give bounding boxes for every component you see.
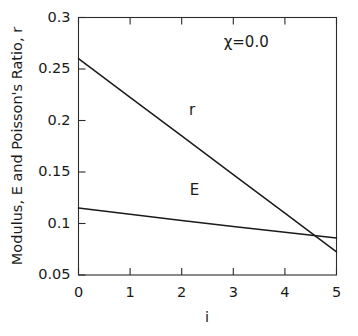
line-chart-canvas: 0.050.10.150.20.250.3 012345 rE χ=0.0 i … (0, 0, 358, 336)
y-axis-tick-labels: 0.050.10.150.20.250.3 (38, 9, 70, 283)
y-tick-label-3: 0.2 (47, 112, 70, 128)
x-tick-label-2: 2 (177, 284, 186, 300)
y-tick-label-1: 0.1 (47, 215, 70, 231)
x-axis-tick-labels: 012345 (74, 284, 341, 300)
curve-label-E: E (190, 181, 199, 199)
annotations-group: χ=0.0 (224, 33, 269, 51)
chart-figure: 0.050.10.150.20.250.3 012345 rE χ=0.0 i … (0, 0, 358, 336)
y-tick-label-2: 0.15 (38, 163, 70, 179)
x-tick-label-4: 4 (280, 284, 289, 300)
curve-labels-group: rE (189, 101, 199, 198)
x-tick-label-3: 3 (229, 284, 238, 300)
annotation-chi-value: χ=0.0 (224, 33, 269, 51)
x-tick-label-1: 1 (125, 284, 134, 300)
data-series-group (79, 59, 337, 252)
y-tick-label-0: 0.05 (38, 266, 70, 282)
x-tick-label-0: 0 (74, 284, 83, 300)
x-axis-title: i (205, 309, 209, 325)
y-tick-label-5: 0.3 (47, 9, 70, 25)
x-axis-ticks (79, 18, 337, 276)
y-tick-label-4: 0.25 (38, 60, 70, 76)
curve-label-r: r (189, 101, 196, 119)
plot-frame (79, 18, 337, 276)
y-axis-ticks (79, 18, 86, 276)
y-axis-title: Modulus, E and Poisson's Ratio, r (9, 27, 25, 265)
x-tick-label-5: 5 (332, 284, 341, 300)
